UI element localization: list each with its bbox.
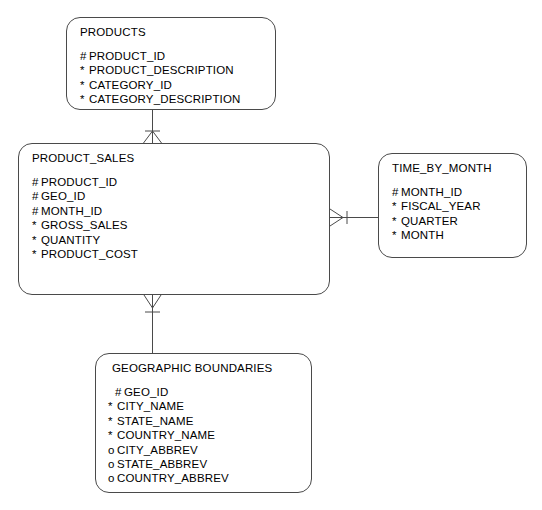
attribute-marker: # [115, 385, 124, 399]
attribute-row: oCITY_ABBREV [108, 443, 229, 457]
crows-foot-icon [144, 295, 161, 308]
attribute-name: GEO_ID [41, 190, 85, 202]
attribute-marker: * [32, 247, 41, 261]
attribute-row: *PRODUCT_COST [32, 247, 138, 261]
entity-title: PRODUCT_SALES [32, 152, 134, 164]
crows-foot-icon [330, 209, 343, 226]
attribute-name: COUNTRY_ABBREV [117, 472, 229, 484]
attribute-row: #PRODUCT_ID [32, 175, 138, 189]
er-diagram-canvas: PRODUCTS #PRODUCT_ID *PRODUCT_DESCRIPTIO… [0, 0, 542, 510]
attribute-marker: # [80, 49, 89, 63]
attribute-row: *PRODUCT_DESCRIPTION [80, 63, 240, 77]
attribute-marker: * [80, 92, 89, 106]
attribute-name: FISCAL_YEAR [401, 200, 481, 212]
attribute-row: #PRODUCT_ID [80, 49, 240, 63]
attribute-row: *MONTH [392, 228, 481, 242]
attribute-marker: * [108, 414, 117, 428]
entity-product-sales[interactable]: PRODUCT_SALES #PRODUCT_ID #GEO_ID #MONTH… [18, 143, 330, 295]
attribute-name: COUNTRY_NAME [117, 429, 215, 441]
attribute-row: *COUNTRY_NAME [108, 428, 229, 442]
attribute-row: oSTATE_ABBREV [108, 457, 229, 471]
attribute-row: *GROSS_SALES [32, 218, 138, 232]
attribute-name: PRODUCT_COST [41, 248, 138, 260]
attribute-marker: # [392, 185, 401, 199]
attribute-row: #GEO_ID [32, 189, 138, 203]
attribute-row: *CATEGORY_DESCRIPTION [80, 92, 240, 106]
attribute-name: STATE_ABBREV [117, 458, 207, 470]
entity-geographic-boundaries[interactable]: GEOGRAPHIC BOUNDARIES #GEO_ID *CITY_NAME… [95, 353, 312, 493]
entity-title: PRODUCTS [80, 26, 146, 38]
attribute-row: *CATEGORY_ID [80, 78, 240, 92]
attribute-marker: * [80, 63, 89, 77]
attribute-list: #PRODUCT_ID #GEO_ID #MONTH_ID *GROSS_SAL… [32, 175, 138, 261]
attribute-name: CITY_ABBREV [117, 444, 198, 456]
attribute-name: PRODUCT_ID [41, 176, 117, 188]
attribute-marker: # [32, 175, 41, 189]
attribute-list: #GEO_ID *CITY_NAME *STATE_NAME *COUNTRY_… [108, 385, 229, 486]
attribute-marker: * [392, 214, 401, 228]
attribute-marker: * [32, 233, 41, 247]
attribute-marker: o [108, 443, 117, 457]
crows-foot-icon [144, 131, 162, 143]
attribute-name: PRODUCT_ID [89, 50, 165, 62]
attribute-name: QUANTITY [41, 234, 100, 246]
attribute-row: *STATE_NAME [108, 414, 229, 428]
attribute-name: CATEGORY_DESCRIPTION [89, 93, 240, 105]
attribute-marker: # [32, 204, 41, 218]
attribute-name: QUARTER [401, 215, 458, 227]
attribute-row: *QUARTER [392, 214, 481, 228]
attribute-row: *QUANTITY [32, 233, 138, 247]
entity-products[interactable]: PRODUCTS #PRODUCT_ID *PRODUCT_DESCRIPTIO… [66, 17, 276, 110]
attribute-marker: * [108, 428, 117, 442]
relationship-product-sales-to-time-by-month[interactable] [330, 209, 378, 226]
attribute-row: *FISCAL_YEAR [392, 199, 481, 213]
attribute-marker: * [392, 228, 401, 242]
entity-title: TIME_BY_MONTH [392, 162, 492, 174]
attribute-marker: * [32, 218, 41, 232]
relationship-products-to-product-sales[interactable] [144, 110, 162, 143]
attribute-name: GROSS_SALES [41, 219, 128, 231]
relationship-product-sales-to-geographic-boundaries[interactable] [144, 295, 161, 353]
attribute-name: MONTH [401, 229, 444, 241]
attribute-name: MONTH_ID [41, 205, 102, 217]
attribute-marker: * [108, 399, 117, 413]
attribute-name: STATE_NAME [117, 415, 193, 427]
attribute-row: #GEO_ID [108, 385, 229, 399]
attribute-list: #MONTH_ID *FISCAL_YEAR *QUARTER *MONTH [392, 185, 481, 243]
attribute-row: oCOUNTRY_ABBREV [108, 471, 229, 485]
attribute-row: #MONTH_ID [392, 185, 481, 199]
attribute-name: MONTH_ID [401, 186, 462, 198]
attribute-marker: o [108, 471, 117, 485]
attribute-marker: # [32, 189, 41, 203]
attribute-name: PRODUCT_DESCRIPTION [89, 64, 234, 76]
attribute-name: CITY_NAME [117, 400, 184, 412]
attribute-marker: * [392, 199, 401, 213]
attribute-row: #MONTH_ID [32, 204, 138, 218]
entity-title: GEOGRAPHIC BOUNDARIES [112, 362, 272, 374]
attribute-marker: * [80, 78, 89, 92]
entity-time-by-month[interactable]: TIME_BY_MONTH #MONTH_ID *FISCAL_YEAR *QU… [378, 153, 527, 258]
attribute-name: GEO_ID [124, 386, 168, 398]
attribute-list: #PRODUCT_ID *PRODUCT_DESCRIPTION *CATEGO… [80, 49, 240, 107]
attribute-name: CATEGORY_ID [89, 79, 172, 91]
attribute-marker: o [108, 457, 117, 471]
attribute-row: *CITY_NAME [108, 399, 229, 413]
